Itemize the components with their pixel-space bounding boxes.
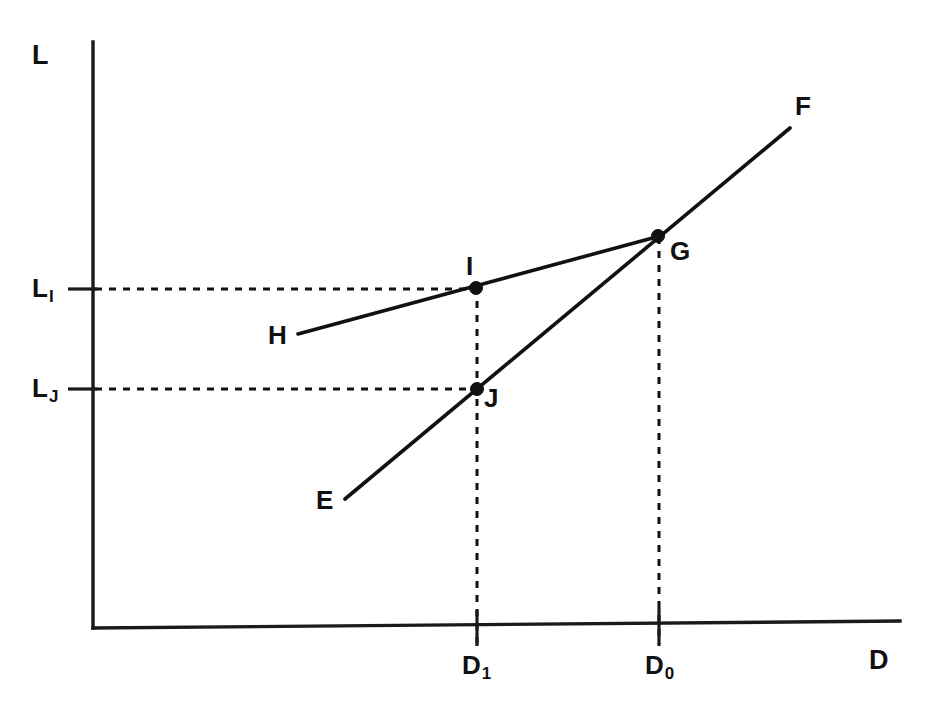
point-I-dot xyxy=(470,282,483,295)
x-tick-label-D0: D0 xyxy=(645,652,673,678)
y-tick-label-LJ-sub: J xyxy=(49,387,58,406)
x-tick-label-D1: D1 xyxy=(462,652,490,678)
line-EF xyxy=(345,128,790,499)
line-label-H: H xyxy=(268,322,287,348)
y-axis-label: L xyxy=(32,42,49,69)
x-tick-label-D1-sub: 1 xyxy=(482,664,491,683)
line-label-E: E xyxy=(316,487,333,513)
y-tick-label-LJ: LJ xyxy=(32,375,57,401)
economics-line-diagram: L D LI LJ D1 D0 I J G F H E xyxy=(0,0,926,715)
y-tick-label-LI: LI xyxy=(32,275,53,301)
x-tick-label-D0-base: D xyxy=(645,652,664,678)
point-label-J: J xyxy=(484,385,498,411)
y-tick-label-LJ-base: L xyxy=(32,375,48,401)
x-tick-label-D1-base: D xyxy=(462,652,481,678)
y-tick-label-LI-sub: I xyxy=(49,287,54,306)
point-J-dot xyxy=(471,383,484,396)
x-axis xyxy=(93,621,900,628)
line-label-F: F xyxy=(795,93,811,119)
point-label-I: I xyxy=(466,253,473,279)
diagram-canvas xyxy=(0,0,926,715)
point-label-G: G xyxy=(670,238,690,264)
y-tick-label-LI-base: L xyxy=(32,275,48,301)
x-tick-label-D0-sub: 0 xyxy=(665,664,674,683)
x-axis-label: D xyxy=(869,647,889,674)
point-G-dot xyxy=(652,230,665,243)
